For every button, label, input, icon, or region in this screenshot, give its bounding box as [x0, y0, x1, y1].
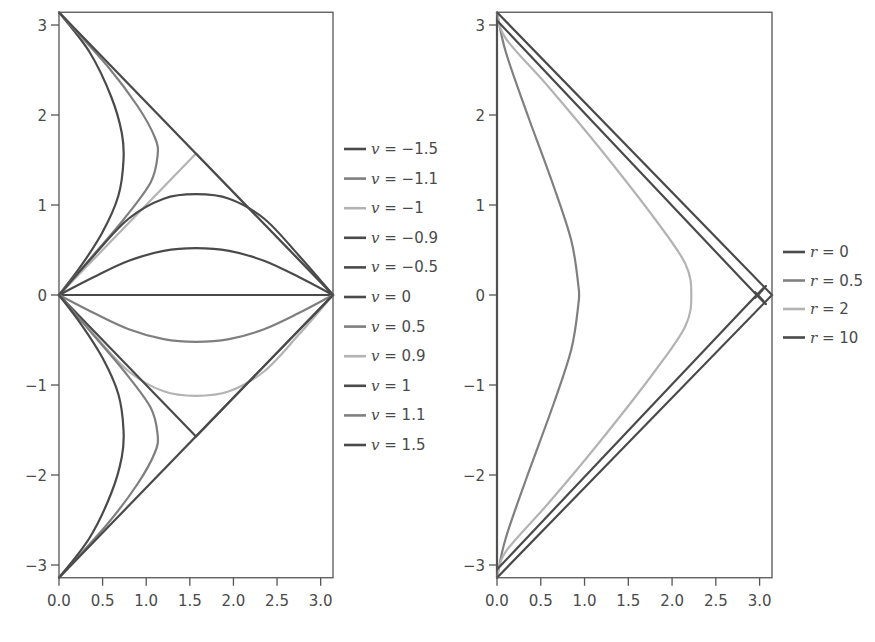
x-tick-label: 3.0 [309, 592, 333, 610]
plot-frame [497, 12, 772, 577]
legend-label: v = 0 [371, 288, 411, 306]
x-tick-label: 0.5 [529, 592, 553, 610]
x-tick-label: 1.5 [616, 592, 640, 610]
x-tick-label: 2.0 [222, 592, 246, 610]
legend-label: r = 0 [810, 243, 849, 261]
series-line-r-2 [497, 12, 691, 577]
x-tick-label: 2.5 [265, 592, 289, 610]
y-tick-label: −3 [463, 557, 485, 575]
series-line-v-4 [59, 248, 333, 295]
series-line-v-0 [59, 12, 124, 295]
figure: 3210−1−2−30.00.51.01.52.02.53.0 v = −1.5… [0, 0, 875, 642]
right-legend: r = 0r = 0.5r = 2r = 10 [783, 243, 863, 347]
x-tick-label: 1.5 [178, 592, 202, 610]
y-tick-label: 3 [475, 17, 485, 35]
y-tick-label: −1 [463, 377, 485, 395]
legend-label: v = −1 [371, 199, 424, 217]
y-tick-label: 1 [37, 197, 47, 215]
series-line-v-10 [59, 295, 124, 578]
y-tick-label: −2 [25, 467, 47, 485]
legend-label: v = 1.5 [371, 436, 425, 454]
legend-label: r = 2 [810, 300, 849, 318]
x-tick-label: 0.0 [485, 592, 509, 610]
left-legend: v = −1.5v = −1.1v = −1v = −0.9v = −0.5v … [344, 140, 438, 454]
x-tick-label: 3.0 [748, 592, 772, 610]
x-tick-label: 1.0 [573, 592, 597, 610]
series-line-v-6 [59, 295, 333, 342]
y-tick-label: 2 [475, 107, 485, 125]
y-tick-label: 3 [37, 17, 47, 35]
y-tick-label: 0 [475, 287, 485, 305]
legend-label: v = 0.9 [371, 347, 425, 365]
series-line-v-7 [59, 295, 333, 396]
legend-label: v = −1.5 [371, 140, 438, 158]
right-plot-panel: 3210−1−2−30.00.51.01.52.02.53.0 [463, 12, 772, 609]
legend-label: v = −1.1 [371, 170, 438, 188]
y-tick-label: 2 [37, 107, 47, 125]
legend-label: v = −0.9 [371, 229, 438, 247]
x-tick-label: 0.0 [47, 592, 71, 610]
y-tick-label: −1 [25, 377, 47, 395]
legend-label: v = 0.5 [371, 318, 425, 336]
legend-label: v = 1 [371, 377, 411, 395]
series-line-r-1 [497, 12, 579, 577]
legend-label: v = 1.1 [371, 406, 425, 424]
legend-label: r = 0.5 [810, 272, 863, 290]
boundary-line [497, 12, 772, 577]
x-tick-label: 2.0 [660, 592, 684, 610]
series-line-v-3 [59, 194, 333, 295]
y-tick-label: −2 [463, 467, 485, 485]
left-plot-panel: 3210−1−2−30.00.51.01.52.02.53.0 [25, 12, 333, 609]
y-tick-label: −3 [25, 557, 47, 575]
series-line-v-1 [59, 12, 158, 295]
legend-label: r = 10 [810, 329, 858, 347]
legend-label: v = −0.5 [371, 258, 438, 276]
series-line-v-9 [59, 295, 158, 578]
series-line-r-3 [497, 21, 766, 570]
y-tick-label: 0 [37, 287, 47, 305]
x-tick-label: 1.0 [134, 592, 158, 610]
y-tick-label: 1 [475, 197, 485, 215]
x-tick-label: 2.5 [704, 592, 728, 610]
x-tick-label: 0.5 [91, 592, 115, 610]
